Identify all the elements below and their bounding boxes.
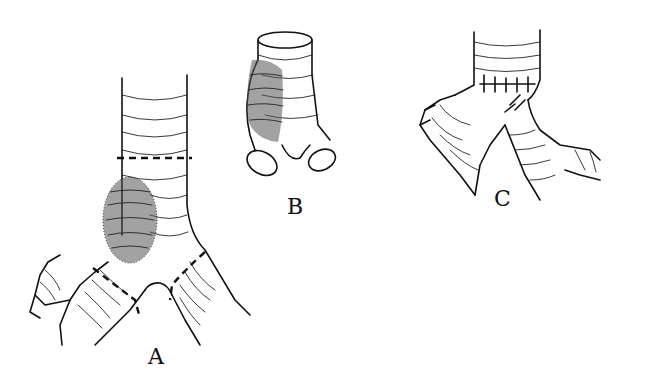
panel-c-label: C: [494, 188, 511, 210]
panel-a-drawing: [0, 0, 646, 381]
panel-a-label: A: [148, 346, 164, 368]
panel-b-label: B: [287, 196, 303, 218]
surgical-illustration: A B C: [0, 0, 646, 381]
